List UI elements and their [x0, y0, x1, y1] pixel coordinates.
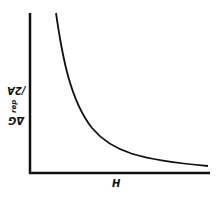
x-axis-label: H — [112, 178, 120, 189]
y-axis-label-base: ΔG — [9, 115, 25, 126]
y-axis-label-superscript: rep — [10, 100, 18, 113]
y-axis-label: ΔGrep/2A — [2, 60, 30, 150]
plot-area — [0, 0, 222, 198]
y-axis-label-suffix: /2A — [7, 85, 25, 96]
chart: ΔGrep/2A H — [0, 0, 222, 198]
curve-line — [56, 13, 208, 166]
